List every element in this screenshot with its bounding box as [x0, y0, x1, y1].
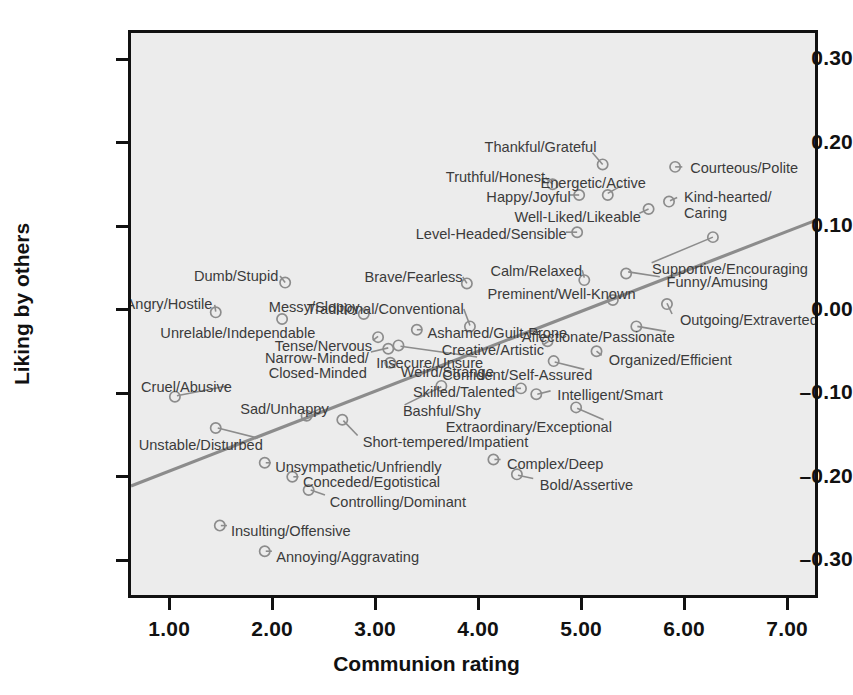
y-tick-mark: [116, 141, 128, 144]
y-tick-label: 0.00: [747, 297, 853, 321]
data-point-label: Level-Headed/Sensible: [416, 226, 567, 242]
data-point-label: Intelligent/Smart: [557, 387, 662, 403]
data-point-label: Courteous/Polite: [690, 160, 798, 176]
data-point-label: Bold/Assertive: [540, 477, 633, 493]
y-tick-label: –0.30: [747, 547, 853, 571]
data-point-label: Closed-Minded: [269, 365, 367, 381]
scatter-plot-figure: Thankful/GratefulCourteous/PoliteTruthfu…: [0, 0, 853, 695]
y-tick-label: –0.20: [747, 464, 853, 488]
data-point-label: Cruel/Abusive: [141, 379, 232, 395]
data-point-label: Calm/Relaxed: [490, 263, 582, 279]
data-point-label: Controlling/Dominant: [330, 494, 466, 510]
y-tick-mark: [116, 308, 128, 311]
data-point-label: Skilled/Talented: [413, 384, 515, 400]
data-point-label: Extraordinary/Exceptional: [446, 419, 612, 435]
y-tick-label: 0.10: [747, 213, 853, 237]
data-point-label: Conceded/Egotistical: [303, 474, 440, 490]
data-point-label: Sad/Unhappy: [240, 401, 328, 417]
data-point-label: Brave/Fearless: [364, 269, 462, 285]
y-tick-mark: [116, 58, 128, 61]
y-tick-mark: [116, 475, 128, 478]
data-point-label: Thankful/Grateful: [485, 139, 597, 155]
leader-line: [537, 391, 550, 394]
data-point-marker[interactable]: [664, 196, 674, 206]
x-tick-label: 3.00: [335, 617, 415, 641]
data-point-label: Kind-hearted/: [684, 189, 772, 205]
data-point-marker[interactable]: [591, 346, 601, 356]
data-point-marker[interactable]: [603, 190, 613, 200]
leader-line: [582, 270, 584, 277]
x-tick-label: 6.00: [644, 617, 724, 641]
data-point-label: Narrow-Minded/: [265, 350, 369, 366]
x-tick-mark: [786, 598, 789, 610]
data-point-label: Annoying/Aggravating: [276, 549, 419, 565]
x-tick-label: 7.00: [747, 617, 827, 641]
y-tick-mark: [116, 559, 128, 562]
data-point-label: Unstable/Disturbed: [139, 437, 263, 453]
data-point-label: Happy/Joyful: [486, 189, 570, 205]
x-tick-mark: [580, 598, 583, 610]
y-tick-label: 0.20: [747, 130, 853, 154]
data-point-label: Dumb/Stupid: [194, 268, 278, 284]
data-point-marker[interactable]: [548, 356, 558, 366]
x-tick-label: 4.00: [438, 617, 518, 641]
x-tick-mark: [271, 598, 274, 610]
x-tick-mark: [477, 598, 480, 610]
data-point-marker[interactable]: [337, 415, 347, 425]
data-point-label: Truthful/Honest: [446, 169, 545, 185]
x-tick-mark: [168, 598, 171, 610]
y-axis-title: Liking by others: [10, 174, 34, 434]
data-point-label: Caring: [684, 205, 727, 221]
data-point-label: Insulting/Offensive: [231, 523, 351, 539]
y-tick-label: –0.10: [747, 380, 853, 404]
data-point-label: Well-Liked/Likeable: [514, 209, 640, 225]
x-tick-label: 1.00: [129, 617, 209, 641]
data-point-marker[interactable]: [277, 314, 287, 324]
plot-area: Thankful/GratefulCourteous/PoliteTruthfu…: [128, 30, 818, 598]
data-point-label: Organized/Efficient: [609, 352, 732, 368]
data-point-label: Preminent/Well-Known: [487, 286, 635, 302]
data-point-label: Complex/Deep: [507, 456, 604, 472]
data-point-label: Funny/Amusing: [667, 274, 768, 290]
data-point-label: Traditional/Conventional: [307, 301, 464, 317]
data-point-label: Confident/Self-Assured: [442, 367, 592, 383]
data-point-label: Angry/Hostile: [128, 296, 212, 312]
x-tick-mark: [374, 598, 377, 610]
data-point-label: Short-tempered/Impatient: [363, 434, 528, 450]
data-point-marker[interactable]: [571, 402, 581, 412]
y-tick-label: 0.30: [747, 46, 853, 70]
data-point-marker[interactable]: [621, 268, 631, 278]
data-point-label: Bashful/Shy: [403, 403, 481, 419]
x-tick-mark: [683, 598, 686, 610]
y-tick-mark: [116, 225, 128, 228]
data-point-marker[interactable]: [393, 340, 403, 350]
leader-line: [652, 237, 713, 263]
data-point-label: Affectionate/Passionate: [522, 329, 675, 345]
x-tick-label: 5.00: [541, 617, 621, 641]
leader-line: [371, 348, 388, 352]
x-tick-label: 2.00: [232, 617, 312, 641]
y-tick-mark: [116, 392, 128, 395]
leader-line: [215, 305, 216, 312]
x-axis-title: Communion rating: [0, 652, 853, 676]
